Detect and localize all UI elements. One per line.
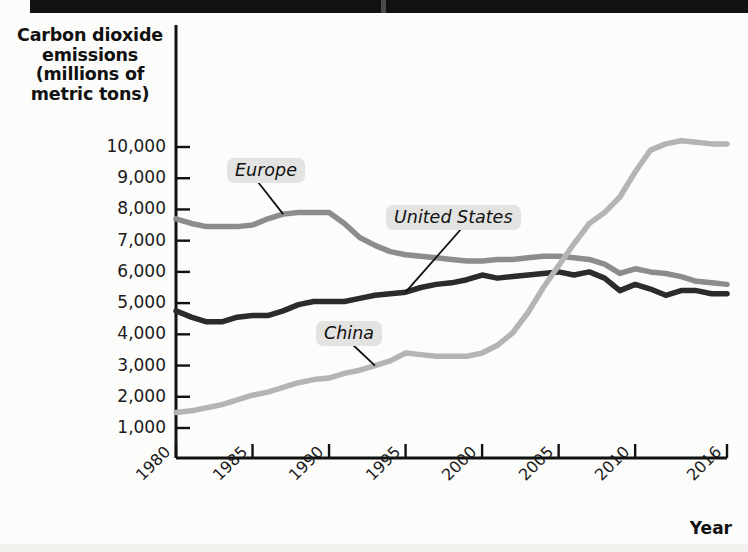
series-label-china: China	[316, 321, 382, 346]
y-axis-tick-label: 4,000	[66, 323, 166, 343]
series-label-europe: Europe	[227, 158, 305, 183]
series-label-united-states: United States	[386, 205, 521, 230]
leader-line	[352, 344, 375, 366]
y-axis-tick-label: 5,000	[66, 292, 166, 312]
y-axis-tick-label: 10,000	[66, 136, 166, 156]
y-axis-tick-label: 6,000	[66, 261, 166, 281]
y-axis-tick-label: 7,000	[66, 230, 166, 250]
y-axis-tick-label: 9,000	[66, 167, 166, 187]
series-line-united-states	[176, 272, 727, 322]
chart-page: Carbon dioxide emissions (millions of me…	[0, 0, 748, 552]
leader-line	[258, 182, 283, 214]
y-axis-tick-label: 2,000	[66, 386, 166, 406]
y-axis-tick-label: 3,000	[66, 355, 166, 375]
y-axis-tick-label: 1,000	[66, 417, 166, 437]
y-axis-tick-label: 8,000	[66, 198, 166, 218]
